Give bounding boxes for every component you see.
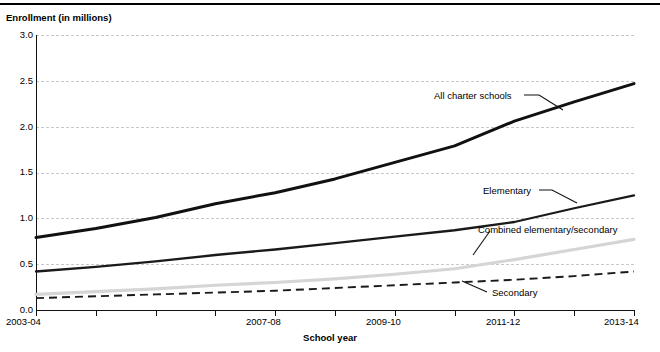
series-layer [0,0,660,352]
chart-figure: Enrollment (in millions) 3.0 2.5 2.0 1.5… [0,0,660,352]
annotation-combined-elementary-secondary: Combined elementary/secondary [478,224,617,235]
annotation-elementary: Elementary [483,185,531,196]
leader-line-secondary [462,281,487,292]
leader-line-elementary [539,190,577,203]
annotation-all-charter-schools: All charter schools [434,90,512,101]
series-line-secondary [36,272,634,299]
series-line-combined-elementary-secondary [36,239,634,294]
annotation-secondary: Secondary [492,287,537,298]
